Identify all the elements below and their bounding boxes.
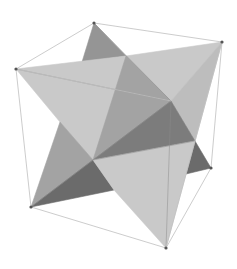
cube-edge xyxy=(16,69,31,207)
vertex-dot-bottom xyxy=(164,246,167,249)
vertex-dot-left xyxy=(14,67,17,70)
polyhedron-faces xyxy=(16,23,222,248)
polyhedron-svg xyxy=(0,0,237,269)
stella-octangula-figure xyxy=(0,0,237,269)
vertex-dot-right-bottom xyxy=(209,166,212,169)
vertex-dot-right-top xyxy=(220,40,223,43)
face-top-back-dark xyxy=(82,23,126,62)
cube-edge xyxy=(94,23,222,42)
vertex-dot-top xyxy=(92,21,95,24)
vertex-dot-bottom-left xyxy=(29,205,32,208)
